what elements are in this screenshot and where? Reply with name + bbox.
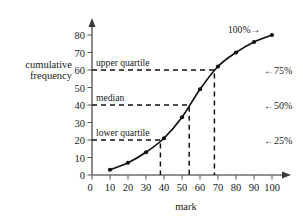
cumulative-frequency-chart: 0 10 20 30 40 50 60 70 80 0 10 20 30 40 … bbox=[0, 0, 303, 224]
x-tick-labels: 0 10 20 30 40 50 60 70 80 90 100 bbox=[87, 182, 280, 193]
data-point bbox=[198, 87, 202, 91]
data-point bbox=[180, 115, 184, 119]
x-tick-label-50: 50 bbox=[177, 182, 188, 193]
median-label: median bbox=[96, 92, 124, 103]
x-tick-label-30: 30 bbox=[141, 182, 152, 193]
x-tick-label-80: 80 bbox=[231, 182, 242, 193]
y-axis-title-line1: cumulative bbox=[25, 59, 72, 70]
data-point bbox=[162, 136, 166, 140]
data-point bbox=[270, 33, 274, 37]
data-point bbox=[144, 150, 148, 154]
y-tick-label-10: 10 bbox=[75, 153, 86, 164]
x-tick-label-90: 90 bbox=[249, 182, 260, 193]
y-tick-label-40: 40 bbox=[75, 100, 86, 111]
y-tick-label-0: 0 bbox=[80, 170, 85, 181]
data-point bbox=[252, 40, 256, 44]
hundred-percent-label: 100%→ bbox=[228, 24, 260, 35]
y-tick-label-80: 80 bbox=[75, 30, 86, 41]
percent-25-label: ←25% bbox=[264, 135, 292, 146]
y-tick-label-60: 60 bbox=[75, 65, 86, 76]
y-tick-label-50: 50 bbox=[75, 83, 86, 94]
data-point bbox=[108, 168, 112, 172]
upper-quartile-label: upper quartile bbox=[96, 57, 150, 68]
lower-quartile-guide bbox=[92, 140, 160, 175]
data-point bbox=[234, 50, 238, 54]
data-point bbox=[216, 64, 220, 68]
y-tick-labels: 0 10 20 30 40 50 60 70 80 bbox=[75, 30, 86, 181]
x-tick-label-70: 70 bbox=[213, 182, 224, 193]
x-tick-label-100: 100 bbox=[264, 182, 280, 193]
x-axis-arrowhead bbox=[282, 172, 291, 179]
x-tick-label-60: 60 bbox=[195, 182, 206, 193]
x-tick-label-20: 20 bbox=[123, 182, 134, 193]
y-tick-label-30: 30 bbox=[75, 118, 86, 129]
upper-quartile-guide bbox=[92, 70, 214, 175]
x-tick-label-10: 10 bbox=[105, 182, 116, 193]
ogive-curve bbox=[110, 35, 272, 170]
chart-canvas: 0 10 20 30 40 50 60 70 80 0 10 20 30 40 … bbox=[0, 0, 303, 224]
x-tick-label-0: 0 bbox=[87, 182, 92, 193]
x-axis-title: mark bbox=[175, 201, 197, 212]
y-tick-label-70: 70 bbox=[75, 48, 86, 59]
x-tick-label-40: 40 bbox=[159, 182, 170, 193]
percent-75-label: ←75% bbox=[264, 65, 292, 76]
y-axis-arrowhead bbox=[89, 18, 96, 27]
y-axis-title-line2: frequency bbox=[30, 70, 73, 81]
quartile-guides bbox=[92, 70, 214, 175]
data-point bbox=[126, 161, 130, 165]
percent-50-label: ←50% bbox=[264, 100, 292, 111]
y-tick-label-20: 20 bbox=[75, 135, 86, 146]
lower-quartile-label: lower quartile bbox=[96, 127, 150, 138]
